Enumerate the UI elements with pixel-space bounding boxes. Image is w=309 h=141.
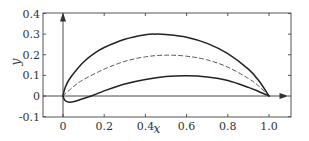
data-series [63, 34, 269, 102]
x-tick-label: 0.2 [95, 120, 113, 133]
x-tick-label: 1.0 [260, 120, 278, 133]
y-tick-label: 0.2 [23, 49, 41, 62]
y-tick-label: 0.1 [23, 69, 41, 82]
x-tick-label: 0.6 [178, 120, 196, 133]
x-axis-arrow-icon [279, 93, 288, 99]
y-tick-label: -0.1 [19, 111, 40, 124]
y-tick-label: 0.3 [23, 28, 41, 41]
y-tick-label: 0.4 [23, 8, 41, 21]
x-tick-label: 0 [60, 120, 67, 133]
series-upper-surface [63, 34, 269, 96]
airfoil-chart: 00.20.40.60.81.0-0.100.10.20.30.4 x y [0, 0, 309, 141]
axis-arrows [43, 13, 288, 117]
y-tick-label: 0 [33, 90, 40, 103]
y-axis-label: y [9, 58, 23, 66]
x-axis-label: x [154, 122, 161, 136]
y-axis-arrow-icon [60, 13, 66, 22]
x-tick-label: 0.4 [137, 120, 155, 133]
x-tick-label: 0.8 [219, 120, 237, 133]
series-lower-surface [63, 76, 269, 102]
